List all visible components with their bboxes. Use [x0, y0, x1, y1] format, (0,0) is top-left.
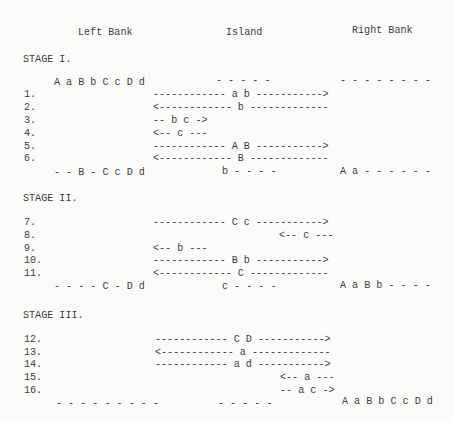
stage-1-final-island: b - - - -	[222, 166, 277, 178]
stage-2-title: STAGE II.	[23, 193, 78, 205]
move-number: 1.	[24, 89, 36, 101]
move-number: 5.	[24, 141, 36, 153]
move-arrow: <-- a ---	[280, 372, 335, 384]
stage-3-final-island: - - - - -	[218, 398, 273, 410]
stage-2-final-right-bank: A a B b - - - -	[340, 280, 431, 292]
move-number: 4.	[24, 128, 36, 140]
move-arrow: ------------ C D ----------->	[155, 334, 331, 346]
stage-1-final-left-bank: - - B - C c D d	[54, 167, 145, 179]
stage-3-title: STAGE III.	[23, 310, 84, 322]
move-number: 6.	[24, 153, 36, 165]
move-number: 2.	[24, 102, 36, 114]
stage-1-initial-right-bank: - - - - - - - -	[340, 75, 431, 87]
move-arrow: <-- b ---	[153, 243, 208, 255]
move-arrow: <------------ b -------------	[153, 102, 329, 114]
move-number: 14.	[24, 359, 42, 371]
stage-1-final-right-bank: A a - - - - - -	[340, 166, 431, 178]
move-arrow: ------------ C c ----------->	[153, 217, 329, 229]
stage-3-final-right-bank: A a B b C c D d	[342, 396, 433, 408]
move-number: 15.	[24, 372, 42, 384]
move-arrow: <------------ C -------------	[153, 268, 329, 280]
move-arrow: ------------ A B ----------->	[153, 141, 329, 153]
move-number: 7.	[24, 217, 36, 229]
move-number: 12.	[24, 334, 42, 346]
move-arrow: <------------ a -------------	[155, 347, 331, 359]
stage-2-final-left-bank: - - - - C - D d	[54, 281, 145, 293]
move-arrow: ------------ a d ----------->	[155, 359, 331, 371]
move-number: 10.	[24, 255, 42, 267]
move-arrow: -- b c ->	[153, 115, 208, 127]
stage-2-final-island: c - - - -	[222, 281, 277, 293]
stage-1-title: STAGE I.	[23, 54, 71, 66]
move-number: 3.	[24, 115, 36, 127]
stage-3-final-left-bank: - - - - - - - - -	[56, 398, 159, 410]
move-arrow: <-- c ---	[279, 230, 334, 242]
island-header: Island	[226, 27, 262, 39]
move-number: 9.	[24, 243, 36, 255]
move-number: 13.	[24, 347, 42, 359]
right-bank-header: Right Bank	[352, 25, 413, 37]
move-number: 11.	[24, 268, 42, 280]
move-arrow: ------------ B b ----------->	[153, 255, 329, 267]
move-arrow: ------------ a b ----------->	[153, 89, 329, 101]
move-number: 8.	[24, 230, 36, 242]
move-arrow: -- a c ->	[280, 385, 335, 397]
move-arrow: <------------ B -------------	[153, 153, 329, 165]
move-arrow: <-- c ---	[153, 128, 208, 140]
stage-1-initial-left-bank: A a B b C c D d	[54, 77, 145, 89]
stage-1-initial-island: - - - - -	[216, 75, 271, 87]
move-number: 16.	[24, 385, 42, 397]
left-bank-header: Left Bank	[78, 27, 133, 39]
